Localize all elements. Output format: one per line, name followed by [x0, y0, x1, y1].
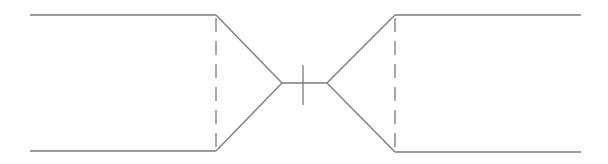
left-taper-bottom: [216, 83, 282, 151]
right-taper-top: [327, 15, 395, 83]
nozzle-diagram: [0, 0, 608, 164]
right-taper-bottom: [327, 83, 395, 152]
left-taper-top: [216, 15, 282, 83]
